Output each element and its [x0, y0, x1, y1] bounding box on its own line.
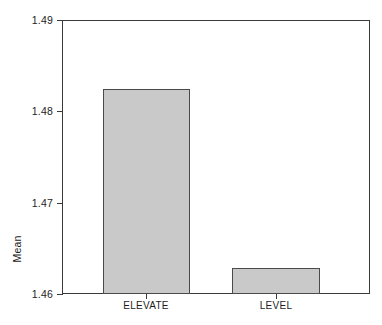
y-tick-mark-4 [57, 294, 63, 295]
x-tick-mark-elevate [146, 294, 147, 299]
y-tick-mark-1 [57, 20, 63, 21]
x-tick-mark-level [276, 294, 277, 299]
y-tick-mark-2 [57, 111, 63, 112]
x-tick-label-level: LEVEL [206, 300, 346, 311]
y-tick-label-3: 1.47 [32, 197, 53, 209]
bars-layer [62, 20, 370, 294]
x-tick-label-elevate: ELEVATE [76, 300, 216, 311]
y-tick-label-1: 1.49 [32, 14, 53, 26]
y-tick-label-4: 1.46 [32, 288, 53, 300]
bar-level [232, 268, 320, 294]
bar-elevate [103, 89, 190, 294]
y-tick-mark-3 [57, 203, 63, 204]
bar-chart: 1.49 1.48 1.47 1.46 Mean ELEVATE LEVEL [0, 0, 382, 325]
y-tick-label-2: 1.48 [32, 105, 53, 117]
y-axis-title: Mean [11, 219, 23, 279]
